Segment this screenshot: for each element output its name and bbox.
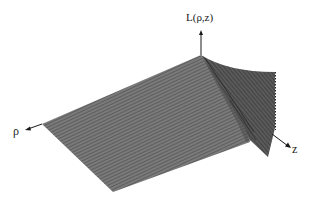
z-axis [272,134,291,148]
z-axis-label: z [292,142,297,157]
l-axis [199,30,203,55]
surface-plot [0,0,309,201]
vertical-axis-label: L(ρ,z) [186,11,213,23]
rho-axis-label: ρ [13,124,19,139]
rho-axis [25,124,42,131]
